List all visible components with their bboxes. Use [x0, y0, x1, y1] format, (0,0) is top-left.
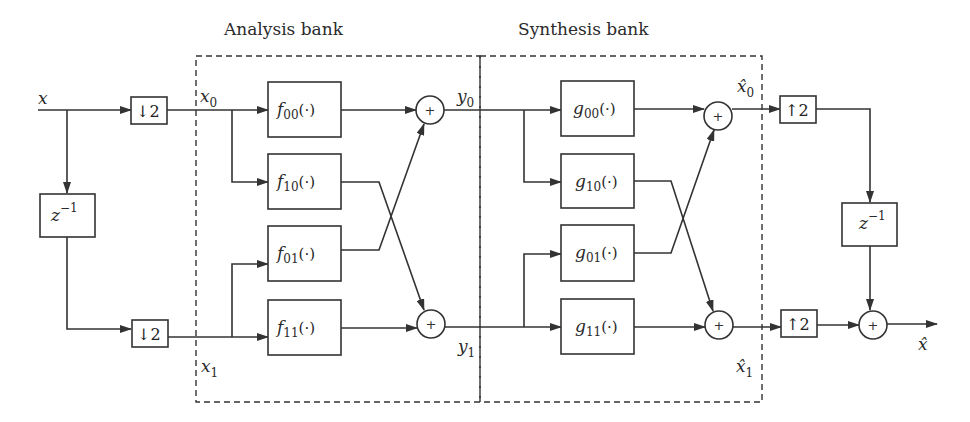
svg-text:↓2: ↓2: [137, 325, 161, 344]
upsample-top-to-delay-wire: [816, 109, 870, 202]
x1-label: x1: [201, 356, 218, 380]
svg-text:↑2: ↑2: [786, 315, 810, 334]
svg-text:↓2: ↓2: [136, 102, 160, 121]
y0-label: y0: [456, 86, 474, 110]
filter-g10: g10(·): [561, 154, 634, 208]
output-signal-label: x̂: [918, 334, 928, 354]
synthesis-sum-bottom: +: [705, 311, 733, 339]
input-delay-block: z−1: [40, 194, 95, 237]
synthesis-bank-title: Synthesis bank: [518, 19, 649, 39]
y0-to-g10-wire: [524, 110, 561, 182]
xhat0-label: x̂0: [737, 76, 754, 100]
svg-text:↑2: ↑2: [785, 101, 809, 120]
filter-g11: g11(·): [561, 299, 634, 354]
x0-to-f10-wire: [232, 110, 268, 182]
xhat1-label: x̂1: [736, 356, 753, 380]
x0-label: x0: [200, 86, 217, 110]
svg-text:+: +: [425, 103, 436, 118]
final-sum: +: [859, 311, 887, 339]
svg-text:+: +: [868, 318, 879, 333]
downsample-bottom-block: ↓2: [132, 320, 168, 347]
y1-to-g01-wire: [524, 254, 561, 327]
x1-to-f01-wire: [232, 264, 268, 337]
filter-f00: f00(·): [268, 82, 341, 137]
filter-f10: f10(·): [268, 154, 341, 209]
filter-f11: f11(·): [268, 300, 341, 355]
filter-g01: g01(·): [561, 225, 634, 281]
output-delay-block: z−1: [842, 203, 897, 246]
f01-to-sum0-wire: [341, 124, 424, 250]
upsample-top-block: ↑2: [780, 96, 816, 123]
input-signal-label: x: [38, 88, 48, 108]
analysis-sum-top: +: [416, 96, 444, 124]
upsample-bottom-block: ↑2: [781, 310, 817, 337]
analysis-bank-title: Analysis bank: [223, 19, 344, 39]
svg-text:+: +: [714, 318, 725, 333]
filter-f01: f01(·): [268, 226, 341, 281]
y1-label: y1: [457, 336, 475, 360]
svg-text:+: +: [713, 109, 724, 124]
f10-to-sum1-wire: [341, 182, 424, 310]
filter-g00: g00(·): [561, 81, 634, 136]
filter-bank-diagram: Analysis bank Synthesis bank x z−1 ↓2 ↓2…: [0, 0, 970, 422]
svg-text:+: +: [426, 317, 437, 332]
downsample-top-block: ↓2: [131, 97, 167, 124]
synthesis-sum-top: +: [704, 102, 732, 130]
analysis-sum-bottom: +: [417, 310, 445, 338]
delayed-wire: [67, 237, 131, 329]
